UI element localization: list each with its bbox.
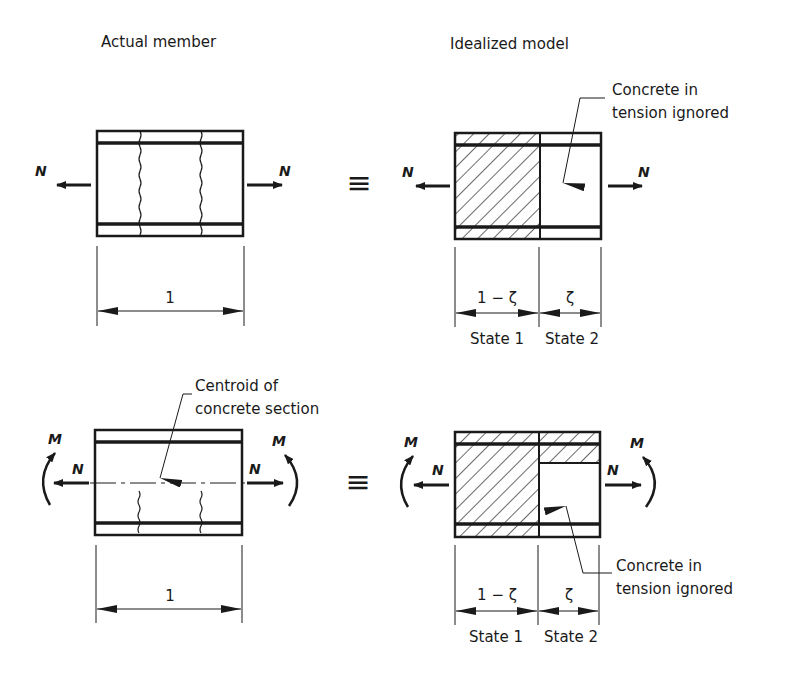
annotation-concrete-tension-line1: Concrete in: [616, 557, 702, 575]
dimension-label-state2: ζ: [566, 289, 574, 307]
force-label-n-right: N: [279, 163, 291, 179]
moment-arrow-right-icon: [643, 457, 655, 507]
annotation-centroid-line1: Centroid of: [195, 377, 279, 395]
dimension-label-state1: 1 − ζ: [477, 586, 517, 604]
annotation-concrete-tension-line2: tension ignored: [612, 104, 729, 122]
crack-icon: [200, 131, 202, 235]
moment-label-m-left: M: [404, 434, 418, 450]
moment-label-m-right: M: [272, 433, 286, 449]
crack-icon: [200, 491, 202, 533]
moment-arrow-right-icon: [285, 455, 297, 506]
force-label-n-left: N: [402, 164, 414, 180]
force-label-n-left: N: [72, 461, 84, 477]
state1-region: [455, 432, 539, 537]
state1-region: [455, 133, 540, 239]
state1-label: State 1: [470, 330, 524, 348]
dimension-label-state2: ζ: [565, 586, 573, 604]
force-label-n-right: N: [607, 462, 619, 478]
header-idealized-model: Idealized model: [450, 35, 569, 53]
equivalence-symbol: ≡: [346, 165, 371, 200]
annotation-centroid-line2: concrete section: [195, 400, 319, 418]
force-label-n-right: N: [638, 164, 650, 180]
top-actual-member: [97, 131, 243, 236]
equivalence-symbol: ≡: [345, 464, 370, 499]
bottom-idealized-model: [455, 432, 600, 537]
dimension-label-unit-length: 1: [165, 289, 175, 307]
state1-label: State 1: [469, 628, 523, 646]
annotation-concrete-tension-line2: tension ignored: [616, 580, 733, 598]
crack-icon: [139, 131, 141, 235]
leader-line: [563, 98, 605, 183]
force-label-n-left: N: [35, 163, 47, 179]
moment-arrow-left-icon: [43, 453, 55, 505]
moment-label-m-right: M: [630, 435, 644, 451]
state2-compression-zone: [539, 432, 600, 463]
header-actual-member: Actual member: [101, 33, 217, 51]
crack-icon: [138, 491, 140, 533]
state2-label: State 2: [544, 628, 598, 646]
dimension-label-state1: 1 − ζ: [477, 289, 517, 307]
annotation-concrete-tension-line1: Concrete in: [612, 81, 698, 99]
top-idealized-model: [455, 133, 601, 239]
moment-arrow-left-icon: [401, 456, 413, 507]
diagram-canvas: Actual member Idealized model N N 1 ≡ N …: [0, 0, 795, 682]
leader-line: [160, 394, 192, 478]
state2-label: State 2: [545, 330, 599, 348]
moment-label-m-left: M: [48, 431, 62, 447]
force-label-n-right: N: [249, 461, 261, 477]
force-label-n-left: N: [432, 462, 444, 478]
leader-line: [566, 506, 612, 573]
dimension-label-unit-length: 1: [165, 587, 175, 605]
